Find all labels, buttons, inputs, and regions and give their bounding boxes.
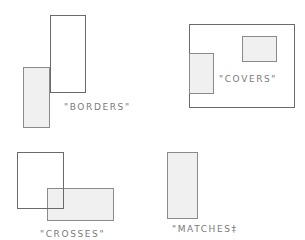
borders-outline-rect: [50, 15, 86, 93]
covers-filled-rect-inner: [242, 36, 277, 62]
covers-filled-rect-left: [189, 53, 214, 94]
crosses-label: "CROSSES": [40, 229, 105, 239]
borders-filled-rect: [23, 67, 50, 128]
covers-label: "COVERS": [219, 74, 277, 84]
borders-label: "BORDERS": [64, 102, 131, 112]
matches-label: "MATCHES‡: [172, 224, 238, 234]
matches-filled-rect: [167, 152, 198, 219]
crosses-outline-rect: [17, 152, 64, 209]
